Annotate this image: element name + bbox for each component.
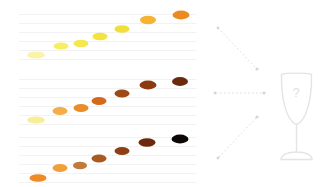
data-point[interactable] — [74, 40, 89, 48]
data-point[interactable] — [172, 135, 189, 144]
data-point[interactable] — [92, 155, 107, 163]
chart-canvas: ? — [0, 0, 334, 187]
data-point[interactable] — [53, 164, 68, 172]
data-point[interactable] — [140, 16, 156, 24]
arrow-bottom-tail-dot — [217, 157, 220, 160]
data-point[interactable] — [115, 147, 130, 155]
scatter-and-glass-figure: ? — [0, 0, 334, 187]
arrow-bottom-head-dot — [255, 115, 258, 118]
data-point[interactable] — [73, 162, 87, 170]
data-point[interactable] — [115, 25, 130, 33]
data-point[interactable] — [27, 51, 45, 58]
data-point[interactable] — [54, 42, 69, 49]
arrow-middle-head-dot — [262, 91, 265, 94]
arrow-top-head-dot — [255, 67, 258, 70]
arrow-top-tail-dot — [217, 27, 220, 30]
data-point[interactable] — [140, 81, 157, 90]
data-point[interactable] — [93, 33, 108, 41]
data-point[interactable] — [173, 11, 190, 20]
data-point[interactable] — [74, 104, 89, 112]
data-point[interactable] — [139, 138, 156, 146]
data-point[interactable] — [30, 174, 47, 182]
arrow-middle-tail-dot — [214, 92, 217, 95]
data-point[interactable] — [92, 97, 107, 105]
data-point[interactable] — [115, 90, 130, 98]
data-point[interactable] — [53, 107, 68, 115]
data-point[interactable] — [172, 77, 188, 86]
data-point[interactable] — [27, 116, 45, 123]
wine-glass-question-mark: ? — [292, 85, 299, 100]
